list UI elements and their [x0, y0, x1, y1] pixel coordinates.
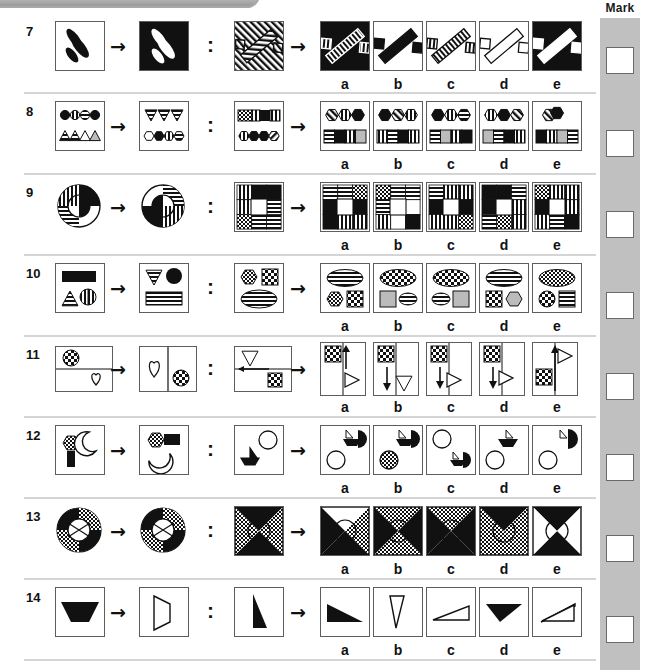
question-8-option-c[interactable]	[426, 101, 476, 151]
question-9-option-b[interactable]	[373, 182, 423, 232]
question-13-stemc	[234, 506, 284, 556]
option-label-a: a	[320, 399, 370, 415]
question-7-option-d[interactable]	[479, 21, 529, 71]
question-14-option-e[interactable]	[532, 587, 582, 637]
option-label-e: e	[532, 642, 582, 658]
question-10-option-c[interactable]	[426, 263, 476, 313]
question-10-stemb	[139, 263, 189, 313]
option-label-c: c	[426, 399, 476, 415]
question-7-option-b[interactable]	[373, 21, 423, 71]
question-number: 12	[26, 428, 40, 443]
option-label-e: e	[532, 318, 582, 334]
question-10-stema	[55, 263, 105, 313]
question-12-option-e[interactable]	[532, 425, 582, 475]
question-14-option-d[interactable]	[479, 587, 529, 637]
question-10-option-e[interactable]	[532, 263, 582, 313]
mark-checkbox-11[interactable]	[606, 373, 634, 400]
question-9-option-a[interactable]	[320, 182, 370, 232]
option-label-d: d	[479, 480, 529, 496]
question-8-option-d[interactable]	[479, 101, 529, 151]
option-label-c: c	[426, 237, 476, 253]
question-8-option-e[interactable]	[532, 101, 582, 151]
question-9-stemb	[139, 182, 189, 232]
option-label-d: d	[479, 76, 529, 92]
question-7-option-c[interactable]	[426, 21, 476, 71]
question-number: 13	[26, 509, 40, 524]
colon-separator: :	[207, 438, 214, 459]
question-11-option-b[interactable]	[373, 342, 419, 396]
mark-checkbox-14[interactable]	[606, 616, 634, 643]
mark-checkbox-8[interactable]	[606, 130, 634, 157]
row-separator	[24, 659, 596, 661]
colon-separator: :	[207, 519, 214, 540]
mark-checkbox-9[interactable]	[606, 211, 634, 238]
question-12-option-d[interactable]	[479, 425, 529, 475]
question-11-option-d[interactable]	[479, 342, 525, 396]
option-label-e: e	[532, 76, 582, 92]
question-9-option-d[interactable]	[479, 182, 529, 232]
question-10-option-b[interactable]	[373, 263, 423, 313]
colon-separator: :	[207, 114, 214, 135]
question-11-stemb	[139, 346, 197, 392]
question-13-option-c[interactable]	[426, 506, 476, 556]
option-label-c: c	[426, 318, 476, 334]
option-label-b: b	[373, 480, 423, 496]
mark-checkbox-12[interactable]	[606, 454, 634, 481]
question-7-option-a[interactable]	[320, 21, 370, 71]
arrow-icon: →	[110, 360, 126, 379]
mark-checkbox-7[interactable]	[606, 47, 634, 74]
colon-separator: :	[207, 34, 214, 55]
row-separator	[24, 254, 596, 256]
question-11-option-e[interactable]	[532, 342, 578, 396]
question-number: 7	[26, 24, 33, 39]
question-12-option-a[interactable]	[320, 425, 370, 475]
option-label-c: c	[426, 76, 476, 92]
option-label-e: e	[532, 399, 582, 415]
arrow-icon: →	[290, 522, 306, 541]
question-9-stemc	[234, 182, 284, 232]
question-14-option-a[interactable]	[320, 587, 370, 637]
question-10-option-d[interactable]	[479, 263, 529, 313]
arrow-icon: →	[290, 360, 306, 379]
arrow-icon: →	[290, 117, 306, 136]
arrow-icon: →	[290, 441, 306, 460]
option-label-e: e	[532, 237, 582, 253]
question-11-option-a[interactable]	[320, 342, 366, 396]
question-12-option-c[interactable]	[426, 425, 476, 475]
question-number: 10	[26, 266, 40, 281]
question-8-stema	[55, 101, 105, 151]
option-label-b: b	[373, 156, 423, 172]
question-7-option-e[interactable]	[532, 21, 582, 71]
question-9-option-c[interactable]	[426, 182, 476, 232]
question-8-option-b[interactable]	[373, 101, 423, 151]
question-number: 9	[26, 185, 33, 200]
question-7-stema	[55, 21, 105, 71]
question-10-option-a[interactable]	[320, 263, 370, 313]
option-label-a: a	[320, 318, 370, 334]
question-13-option-d[interactable]	[479, 506, 529, 556]
arrow-icon: →	[290, 603, 306, 622]
question-12-option-b[interactable]	[373, 425, 423, 475]
question-14-option-b[interactable]	[373, 587, 423, 637]
question-11-option-c[interactable]	[426, 342, 472, 396]
row-separator	[24, 92, 596, 94]
question-13-option-a[interactable]	[320, 506, 370, 556]
option-label-e: e	[532, 480, 582, 496]
question-12-stemc	[234, 425, 284, 475]
mark-column: Mark	[597, 0, 643, 670]
question-14-option-c[interactable]	[426, 587, 476, 637]
option-label-a: a	[320, 76, 370, 92]
question-8-option-a[interactable]	[320, 101, 370, 151]
question-11-stema	[55, 346, 113, 392]
question-number: 8	[26, 104, 33, 119]
question-13-option-b[interactable]	[373, 506, 423, 556]
mark-checkbox-10[interactable]	[606, 292, 634, 319]
question-13-stema	[55, 506, 105, 556]
arrow-icon: →	[110, 441, 126, 460]
option-label-d: d	[479, 642, 529, 658]
question-14-stemc	[234, 587, 284, 637]
option-label-a: a	[320, 561, 370, 577]
mark-checkbox-13[interactable]	[606, 535, 634, 562]
question-9-option-e[interactable]	[532, 182, 582, 232]
question-13-option-e[interactable]	[532, 506, 582, 556]
